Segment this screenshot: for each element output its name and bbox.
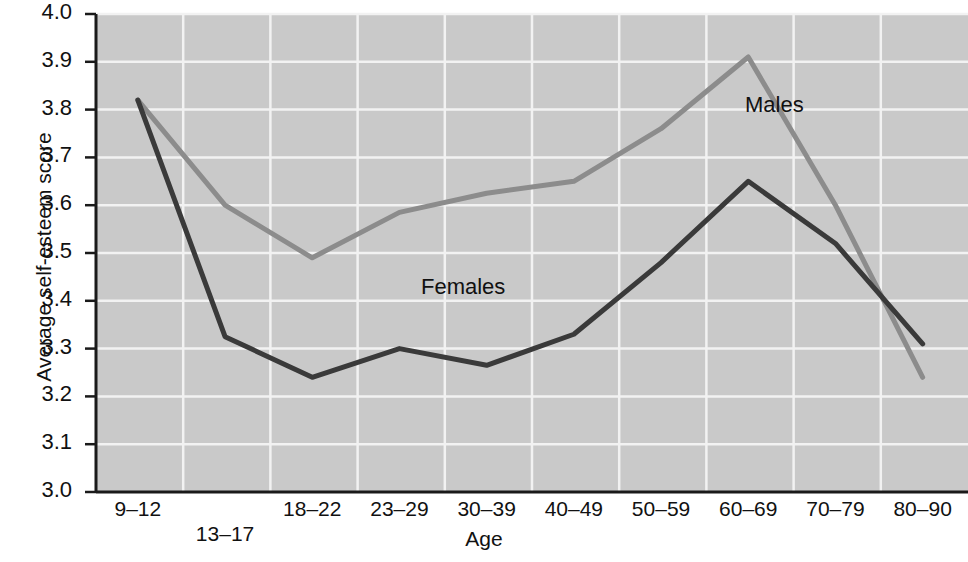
x-axis-tick-label: 40–49 [545,497,603,521]
x-axis-tick-label: 50–59 [632,497,690,521]
y-axis-tick-label: 3.0 [8,477,72,503]
y-axis-tick-label: 4.0 [8,0,72,25]
x-axis-tick-label: 80–90 [893,497,951,521]
y-axis-tick-marks [85,14,96,492]
x-axis-title: Age [0,527,968,551]
series-annotation-males: Males [745,92,804,118]
x-axis-tick-label: 30–39 [457,497,515,521]
series-annotation-females: Females [421,274,505,300]
x-axis-tick-label: 23–29 [370,497,428,521]
x-axis-tick-label: 9–12 [114,497,161,521]
x-axis-tick-label: 70–79 [806,497,864,521]
chart-figure: 3.03.13.23.33.43.53.63.73.83.94.0 9–1213… [0,0,968,562]
y-axis-title: Average self-esteem score [32,47,56,467]
x-axis-tick-label: 60–69 [719,497,777,521]
x-axis-tick-label: 18–22 [283,497,341,521]
